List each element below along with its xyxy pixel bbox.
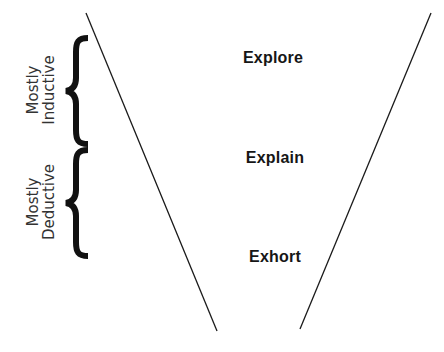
label-mostly-deductive: Mostly Deductive <box>25 164 57 240</box>
funnel-right-edge <box>300 13 431 329</box>
brace-deductive <box>66 150 88 256</box>
label-line-deductive: Deductive <box>41 164 57 240</box>
stage-explain: Explain <box>246 149 304 167</box>
stage-exhort: Exhort <box>249 248 301 266</box>
funnel-left-edge <box>86 13 217 331</box>
label-mostly-inductive: Mostly Inductive <box>25 55 57 124</box>
label-line-mostly: Mostly <box>25 164 41 240</box>
funnel-diagram: Explore Explain Exhort Mostly Inductive … <box>0 0 444 352</box>
label-line-inductive: Inductive <box>41 55 57 124</box>
label-line-mostly: Mostly <box>25 55 41 124</box>
stage-explore: Explore <box>243 49 303 67</box>
brace-inductive <box>66 38 88 144</box>
